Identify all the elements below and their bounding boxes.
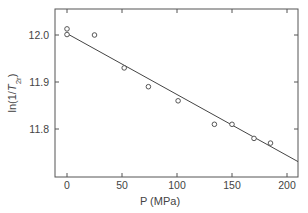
x-tick-label: 200	[278, 179, 296, 191]
data-point	[65, 27, 70, 32]
data-point	[268, 141, 273, 146]
data-point	[252, 136, 257, 141]
scatter-chart: 050100150200 11.811.912.0 P (MPa) ln(1/T…	[0, 0, 308, 213]
y-axis-label: ln(1/T2r)	[6, 74, 23, 113]
data-point	[176, 99, 181, 104]
fit-line	[67, 34, 298, 162]
data-point	[92, 33, 97, 38]
y-tick-label: 11.8	[29, 123, 49, 135]
x-axis-label: P (MPa)	[140, 195, 180, 207]
data-point	[212, 122, 217, 127]
x-tick-label: 150	[223, 179, 241, 191]
data-point	[122, 66, 127, 71]
data-point	[146, 84, 151, 89]
data-point	[65, 32, 70, 37]
x-tick-label: 50	[116, 179, 128, 191]
plot-frame	[55, 9, 298, 177]
y-axis-ticks: 11.811.912.0	[29, 29, 298, 135]
x-tick-label: 0	[64, 179, 70, 191]
data-point	[230, 122, 235, 127]
data-points	[65, 27, 273, 146]
y-tick-label: 11.9	[29, 76, 49, 88]
y-tick-label: 12.0	[29, 29, 50, 41]
x-tick-label: 100	[168, 179, 186, 191]
